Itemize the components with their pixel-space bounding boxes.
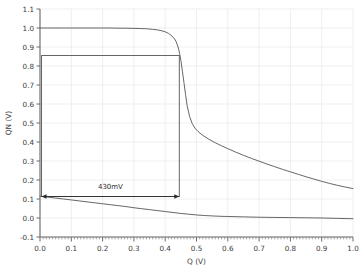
butterfly-curve-plot: -0.10.00.10.20.30.40.50.60.70.80.91.01.1… xyxy=(0,0,362,268)
x-tick-label: 1.0 xyxy=(347,244,359,253)
y-tick-label: 1.0 xyxy=(23,24,35,33)
chart-figure: -0.10.00.10.20.30.40.50.60.70.80.91.01.1… xyxy=(0,0,362,268)
x-tick-label: 0.8 xyxy=(285,244,297,253)
annotation-label-snm: 430mV xyxy=(98,183,123,191)
y-axis-title: QN (V) xyxy=(4,111,13,136)
y-tick-label: 0.2 xyxy=(23,176,34,185)
y-tick-label: 0.8 xyxy=(23,62,35,71)
x-tick-label: 0.3 xyxy=(128,244,139,253)
y-tick-label: 0.4 xyxy=(23,138,35,147)
x-tick-label: 0.5 xyxy=(191,244,202,253)
x-tick-label: 0.6 xyxy=(222,244,234,253)
y-tick-label: -0.1 xyxy=(20,233,34,242)
x-tick-label: 0.1 xyxy=(66,244,77,253)
x-tick-label: 0.2 xyxy=(97,244,108,253)
y-tick-label: 0.3 xyxy=(23,157,34,166)
x-tick-label: 0.4 xyxy=(159,244,171,253)
y-tick-label: 0.0 xyxy=(23,214,35,223)
y-tick-label: 0.1 xyxy=(23,195,34,204)
x-tick-label: 0.0 xyxy=(34,244,46,253)
x-tick-label: 0.7 xyxy=(253,244,264,253)
y-tick-label: 0.9 xyxy=(23,43,35,52)
y-tick-label: 0.7 xyxy=(23,81,34,90)
y-tick-label: 1.1 xyxy=(23,5,34,14)
y-tick-label: 0.6 xyxy=(23,100,35,109)
x-tick-label: 0.9 xyxy=(316,244,328,253)
x-axis-title: Q (V) xyxy=(187,257,206,266)
y-tick-label: 0.5 xyxy=(23,119,34,128)
